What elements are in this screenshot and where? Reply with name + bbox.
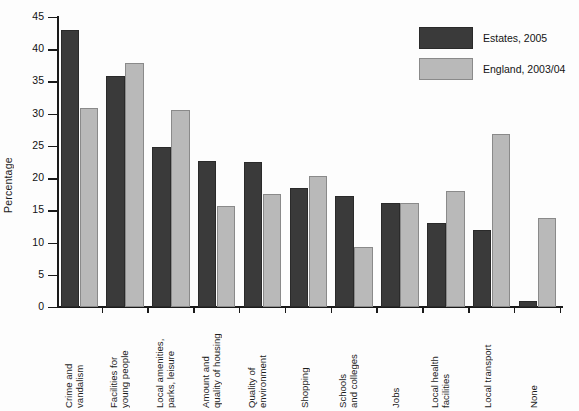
x-axis-category-label: Local healthfacilities [429,318,453,408]
bar [427,223,446,307]
x-axis-tick [514,307,516,313]
y-axis-tick-label: 45 [0,10,44,22]
y-axis-tick [48,178,58,179]
y-axis-tick [48,210,58,211]
x-axis-category-label: None [528,318,542,408]
x-axis-category-label: Local amenities,parks, leisure [154,318,178,408]
legend-item: England, 2003/04 [419,58,575,80]
bar-group [244,17,290,307]
x-axis-category-label: Facilities foryoung people [108,318,132,408]
bar-group [61,17,107,307]
legend-label: Estates, 2005 [483,32,547,44]
bar [80,108,99,307]
y-axis-tick-label: 40 [0,42,44,54]
x-axis-category-label: Schoolsand colleges [337,318,361,408]
x-axis-tick [422,307,424,313]
bar [125,63,144,307]
bar [198,161,217,307]
x-axis-tick [331,307,333,313]
bar [217,206,236,307]
legend-swatch [419,27,473,49]
x-axis-category-label: Quality ofenvironment [246,318,270,408]
y-axis-tick [48,17,58,18]
bar-group [106,17,152,307]
y-axis-tick [48,81,58,82]
bar [446,191,465,307]
bar [492,134,511,307]
legend-swatch [419,58,473,80]
bar [400,203,419,307]
x-axis-tick [468,307,470,313]
y-axis-tick-label: 30 [0,107,44,119]
bar-group [198,17,244,307]
bar-chart: Percentage 051015202530354045 Crime andv… [0,0,579,411]
x-axis-tick [285,307,287,313]
bar [381,203,400,307]
y-axis-tick [48,275,58,276]
bar [335,196,354,307]
bar [309,176,328,307]
x-axis-tick [193,307,195,313]
x-axis-category-label: Local transport [482,318,496,408]
y-axis-tick-label: 10 [0,236,44,248]
x-axis-tick [376,307,378,313]
y-axis-tick [48,49,58,50]
bar [290,188,309,307]
bar [244,162,263,307]
bar [171,110,190,307]
bar [473,230,492,307]
bar [538,218,557,307]
x-axis-category-label: Jobs [390,318,404,408]
y-axis-tick-label: 25 [0,139,44,151]
y-axis-tick-label: 35 [0,74,44,86]
bar [354,247,373,307]
y-axis-tick-label: 0 [0,300,44,312]
x-axis-category-label: Amount andquality of housing [200,318,224,408]
y-axis-tick-label: 20 [0,171,44,183]
bar [263,194,282,307]
bar [106,76,125,307]
x-axis-tick [147,307,149,313]
bar-group [290,17,336,307]
y-axis-tick-label: 15 [0,203,44,215]
x-axis-tick [560,307,562,313]
bar [152,147,171,307]
bar-group [152,17,198,307]
y-axis-tick [48,243,58,244]
x-axis-tick [239,307,241,313]
x-axis-tick [102,307,104,313]
bar [519,301,538,307]
x-axis-category-label: Shopping [299,318,313,408]
legend: Estates, 2005England, 2003/04 [419,27,575,89]
x-axis-category-label: Crime andvandalism [63,318,87,408]
legend-item: Estates, 2005 [419,27,575,49]
bar [61,30,80,307]
y-axis-tick [48,307,58,308]
y-axis-tick-label: 5 [0,268,44,280]
bar-group [335,17,381,307]
y-axis-tick [48,114,58,115]
legend-label: England, 2003/04 [483,63,565,75]
y-axis-tick [48,146,58,147]
